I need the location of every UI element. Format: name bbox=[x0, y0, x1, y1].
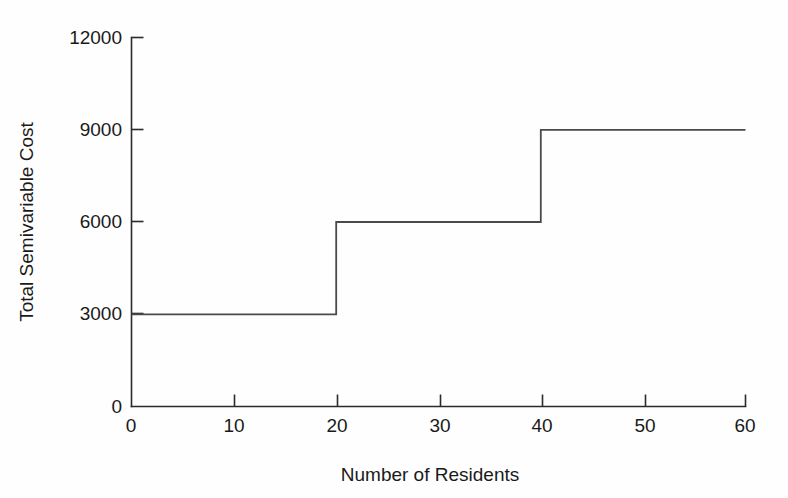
x-tick-label-40: 40 bbox=[531, 415, 552, 436]
y-tick-label-12000: 12000 bbox=[69, 27, 122, 48]
x-tick-label-0: 0 bbox=[126, 415, 137, 436]
y-tick-label-3000: 3000 bbox=[80, 303, 122, 324]
y-tick-label-9000: 9000 bbox=[80, 119, 122, 140]
chart-container: 12000 9000 6000 3000 0 0 10 20 30 40 50 … bbox=[0, 0, 788, 498]
x-tick-label-60: 60 bbox=[734, 415, 755, 436]
step-series-line bbox=[132, 130, 746, 314]
y-tick-label-6000: 6000 bbox=[80, 211, 122, 232]
step-chart: 12000 9000 6000 3000 0 0 10 20 30 40 50 … bbox=[0, 0, 788, 498]
x-tick-label-20: 20 bbox=[326, 415, 347, 436]
x-tick-label-30: 30 bbox=[429, 415, 450, 436]
x-tick-label-50: 50 bbox=[634, 415, 655, 436]
y-tick-label-0: 0 bbox=[111, 396, 122, 417]
y-axis-title: Total Semivariable Cost bbox=[16, 121, 37, 321]
x-axis-title: Number of Residents bbox=[341, 464, 519, 485]
x-tick-label-10: 10 bbox=[223, 415, 244, 436]
